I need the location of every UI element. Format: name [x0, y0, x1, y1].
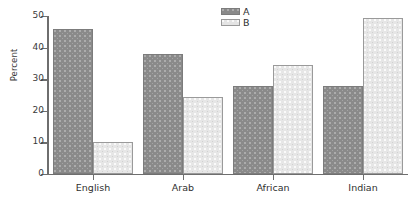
bar-english-a [53, 29, 93, 174]
y-tick-label: 30 [33, 73, 44, 83]
x-category-label-arab: Arab [172, 182, 194, 193]
y-axis-title: Percent [9, 25, 19, 105]
caption-clipped [2, 199, 414, 202]
x-tick-mark [183, 174, 184, 180]
bar-african-a [233, 86, 273, 174]
bar-arab-b [183, 97, 223, 174]
bar-arab-a [143, 54, 183, 174]
x-tick-mark [363, 174, 364, 180]
legend-item-a: A [221, 6, 250, 17]
bar-indian-b [363, 18, 403, 174]
x-tick-mark [273, 174, 274, 180]
legend: A B [221, 6, 267, 32]
bar-chart: Percent 01020304050 EnglishArabAfricanIn… [0, 0, 416, 202]
legend-label-a: A [243, 7, 250, 17]
y-tick-label: 40 [33, 42, 44, 52]
y-tick-label: 20 [33, 105, 44, 115]
bar-african-b [273, 65, 313, 174]
legend-swatch-a-icon [221, 8, 240, 15]
x-category-label-indian: Indian [348, 182, 377, 193]
legend-item-b: B [221, 17, 250, 28]
x-tick-mark [93, 174, 94, 180]
y-tick-label: 0 [38, 168, 44, 178]
bar-english-b [93, 142, 133, 174]
x-category-label-english: English [76, 182, 110, 193]
legend-label-b: B [243, 18, 250, 28]
y-axis-spine [47, 16, 49, 174]
y-tick-label: 10 [33, 136, 44, 146]
bar-indian-a [323, 86, 363, 174]
y-tick-label: 50 [33, 10, 44, 20]
x-category-label-african: African [256, 182, 289, 193]
legend-swatch-b-icon [221, 19, 240, 26]
plot-area: 01020304050 [48, 16, 408, 174]
